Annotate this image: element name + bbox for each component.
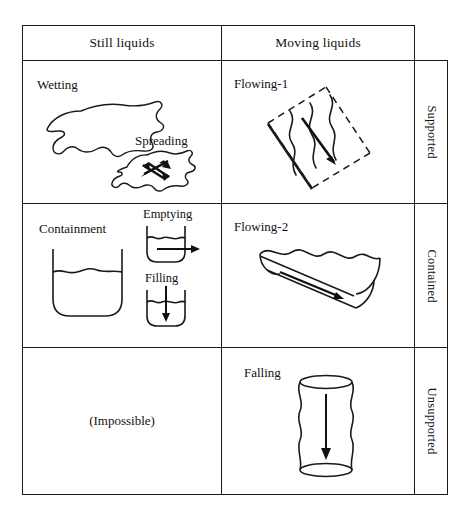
row-label-unsupported: Unsupported: [414, 347, 448, 495]
spreading-blob-icon: [23, 61, 223, 205]
column-header-moving-liquids: Moving liquids: [221, 25, 415, 61]
inclined-flow-plane-icon: [222, 61, 416, 205]
liquid-classification-matrix: Still liquids Moving liquids Wetting Spr…: [22, 25, 448, 495]
inclined-channel-icon: [222, 204, 416, 349]
row-label-contained-text: Contained: [424, 249, 439, 302]
row-label-supported: Supported: [414, 60, 448, 204]
cell-contained-moving-liquids: Flowing-2: [221, 203, 415, 348]
cell-unsupported-still-liquids: (Impossible): [22, 347, 222, 495]
cell-supported-moving-liquids: Flowing-1: [221, 60, 415, 204]
row-label-contained: Contained: [414, 203, 448, 348]
column-header-still-liquids-label: Still liquids: [89, 35, 154, 51]
impossible-label: (Impossible): [23, 348, 221, 494]
row-label-supported-text: Supported: [424, 105, 439, 158]
column-header-still-liquids: Still liquids: [22, 25, 222, 61]
column-header-moving-liquids-label: Moving liquids: [275, 35, 361, 51]
cell-contained-still-liquids: Containment Emptying Filling: [22, 203, 222, 348]
falling-column-icon: [222, 348, 416, 496]
cell-supported-still-liquids: Wetting Spreading: [22, 60, 222, 204]
filling-vessel-icon: [23, 204, 223, 349]
cell-unsupported-moving-liquids: Falling: [221, 347, 415, 495]
row-label-unsupported-text: Unsupported: [424, 388, 439, 455]
